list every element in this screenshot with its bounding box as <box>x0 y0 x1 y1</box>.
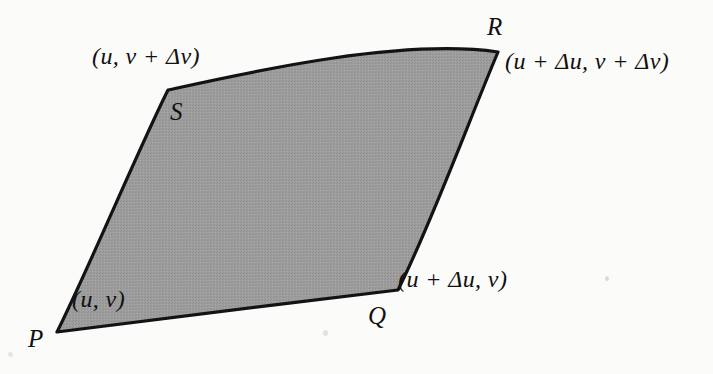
scan-speck <box>8 352 13 357</box>
scan-speck <box>605 276 609 281</box>
vertex-label-s: S <box>170 99 183 124</box>
vertex-label-r: R <box>487 14 503 39</box>
scan-speck <box>323 330 328 336</box>
coordinate-label-q: (u + Δu, v) <box>398 267 507 291</box>
surface-patch-figure: (u, v + Δv) R (u + Δu, v + Δv) S (u + Δu… <box>0 0 713 374</box>
vertex-label-q: Q <box>368 303 386 328</box>
coordinate-label-r: (u + Δu, v + Δv) <box>505 49 669 73</box>
vertex-label-p: P <box>28 326 44 351</box>
coordinate-label-p: (u, v) <box>72 287 125 311</box>
coordinate-label-s: (u, v + Δv) <box>92 44 200 68</box>
